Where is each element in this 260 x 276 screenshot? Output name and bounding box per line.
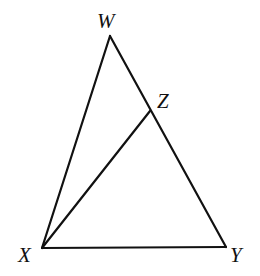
vertex-labels: W Z X Y xyxy=(17,9,244,267)
triangle-diagram: W Z X Y xyxy=(0,0,260,276)
segment-XY xyxy=(42,247,226,248)
triangle-edges xyxy=(42,36,226,248)
vertex-label-y: Y xyxy=(230,243,244,267)
segment-XZ xyxy=(42,111,150,248)
segment-WY xyxy=(110,36,226,247)
vertex-label-w: W xyxy=(97,9,117,33)
vertex-label-x: X xyxy=(17,243,32,267)
segment-WX xyxy=(42,36,110,248)
vertex-label-z: Z xyxy=(157,89,169,113)
